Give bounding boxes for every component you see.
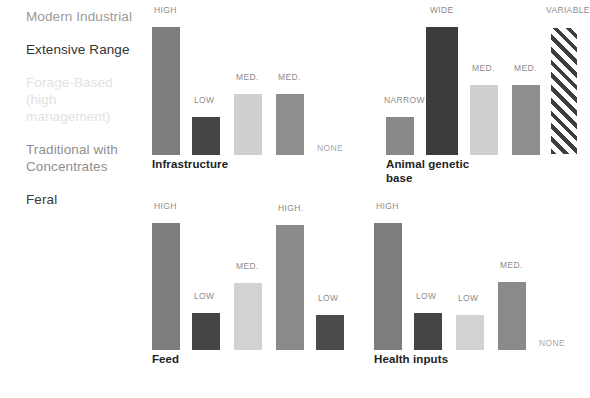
chart-health-inputs: HIGH LOW LOW MED. NONE Health inputs [374,204,574,390]
bar-genetic-4 [550,27,578,155]
bar-health-2 [456,315,484,350]
legend-item-modern-industrial: Modern Industrial [26,8,144,25]
chart-feed: HIGH LOW MED. HIGH. LOW Feed [152,204,352,390]
bar-label-genetic-4: VARIABLE [546,5,590,15]
legend-item-feral: Feral [26,191,144,208]
legend-item-forage-based: Forage-Based (high management) [26,74,144,125]
bar-label-health-3: MED. [500,260,523,270]
bar-label-health-2: LOW [458,293,478,303]
legend-item-extensive-range: Extensive Range [26,41,144,58]
bar-label-feed-3: HIGH. [278,203,303,213]
bar-label-health-0: HIGH [376,201,399,211]
bar-label-feed-1: LOW [194,291,214,301]
plot-area-infrastructure: HIGH LOW MED. MED. NONE [152,8,352,155]
bar-label-genetic-3: MED. [514,63,537,73]
bar-genetic-0 [386,117,414,155]
bar-feed-0 [152,223,180,350]
bar-label-genetic-0: NARROW [384,95,425,105]
bar-label-infrastructure-3: MED. [278,72,301,82]
plot-area-feed: HIGH LOW MED. HIGH. LOW [152,204,352,350]
bar-health-3 [498,282,526,350]
bar-label-infrastructure-4: NONE [317,143,343,153]
bar-label-infrastructure-2: MED. [236,72,259,82]
chart-title-feed: Feed [152,353,179,367]
bar-health-0 [374,223,402,350]
legend-item-traditional-concentrates: Traditional with Concentrates [26,141,144,175]
bar-label-feed-2: MED. [236,261,259,271]
bar-genetic-2 [470,85,498,155]
bar-feed-1 [192,313,220,350]
bar-label-feed-0: HIGH [154,201,177,211]
chart-title-infrastructure: Infrastructure [152,158,228,172]
bar-label-health-1: LOW [416,291,436,301]
bar-label-health-4: NONE [539,338,565,348]
bar-feed-2 [234,283,262,350]
bar-infrastructure-1 [192,117,220,155]
chart-animal-genetic-base: NARROW WIDE MED. MED. VARIABLE Animal ge… [386,8,572,186]
bar-label-genetic-2: MED. [472,63,495,73]
bar-infrastructure-0 [152,27,180,155]
bar-genetic-1 [426,27,458,155]
bar-feed-3 [276,225,304,350]
bar-feed-4 [316,315,344,350]
bar-infrastructure-3 [276,94,304,155]
bar-label-feed-4: LOW [318,293,338,303]
bar-label-infrastructure-1: LOW [194,95,214,105]
chart-infrastructure: HIGH LOW MED. MED. NONE Infrastructure [152,8,352,186]
bar-health-1 [414,313,442,350]
plot-area-genetic: NARROW WIDE MED. MED. VARIABLE [386,8,572,155]
bar-infrastructure-2 [234,94,262,155]
bar-genetic-3 [512,85,540,155]
bar-label-infrastructure-0: HIGH [154,5,177,15]
chart-title-health: Health inputs [374,353,448,367]
bar-label-genetic-1: WIDE [430,5,454,15]
plot-area-health: HIGH LOW LOW MED. NONE [374,204,574,350]
chart-title-genetic: Animal genetic base [386,158,482,185]
category-legend: Modern Industrial Extensive Range Forage… [26,8,144,224]
